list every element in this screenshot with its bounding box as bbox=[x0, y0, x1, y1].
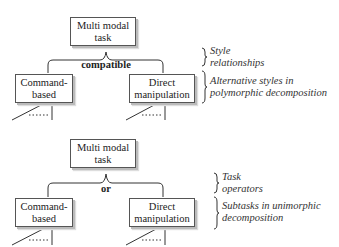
child-box-direct-manipulation-top: Direct manipulation bbox=[129, 74, 195, 103]
operator-compatible: compatible bbox=[81, 59, 131, 70]
annotation-polymorphic: Alternative styles in polymorphic decomp… bbox=[210, 75, 327, 99]
annotation-style-relationships: Style relationships bbox=[210, 45, 264, 69]
root-box-top: Multi modal task bbox=[70, 17, 136, 46]
child-box-command-based-bottom: Command- based bbox=[15, 198, 73, 227]
operator-or: or bbox=[101, 183, 111, 194]
child-box-direct-manipulation-bottom: Direct manipulation bbox=[129, 198, 195, 227]
annotation-unimorphic: Subtasks in unimorphic decomposition bbox=[222, 200, 321, 224]
child-box-command-based-top: Command- based bbox=[15, 74, 73, 103]
root-box-bottom: Multi modal task bbox=[70, 139, 136, 168]
annotation-task-operators: Task operators bbox=[222, 171, 263, 195]
